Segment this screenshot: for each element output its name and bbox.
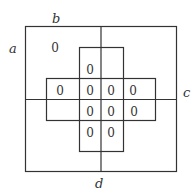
- label-a: a: [9, 42, 17, 55]
- label-c: c: [183, 86, 190, 99]
- label-b: b: [52, 12, 60, 25]
- zero-cell: 0: [129, 106, 139, 118]
- diagram-lines: [0, 0, 196, 196]
- zero-cell: 0: [106, 127, 116, 139]
- zero-cell: 0: [55, 85, 65, 97]
- label-d: d: [95, 177, 103, 190]
- zero-cell: 0: [106, 106, 116, 118]
- zero-cell: 0: [50, 42, 60, 54]
- zero-cell: 0: [85, 64, 95, 76]
- zero-cell: 0: [85, 106, 95, 118]
- zero-cell: 0: [85, 127, 95, 139]
- zero-cell: 0: [128, 85, 138, 97]
- zero-cell: 0: [106, 85, 116, 97]
- zero-cell: 0: [85, 85, 95, 97]
